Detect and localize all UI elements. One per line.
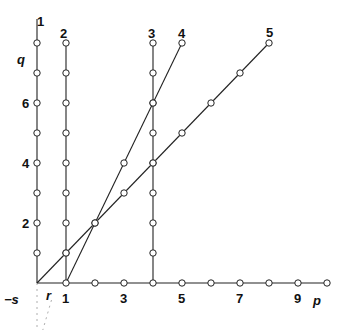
line-5-point [63, 250, 69, 256]
q-tick-label: 2 [22, 216, 29, 231]
line-5-point [237, 70, 243, 76]
p-axis-point [92, 280, 98, 286]
tick-labels-group: 13579246 [22, 96, 301, 306]
p-axis-point [150, 280, 156, 286]
points-group [34, 40, 330, 286]
line-1-point [34, 190, 40, 196]
line-3-point [150, 70, 156, 76]
p-axis-end-point [324, 280, 330, 286]
p-tick-label: 5 [178, 291, 185, 306]
line-2-point [63, 160, 69, 166]
line-2-point [63, 70, 69, 76]
p-axis-point [121, 280, 127, 286]
line-3-label: 3 [148, 26, 155, 41]
line-4-label: 4 [178, 26, 186, 41]
line-1-point [34, 130, 40, 136]
line-3-point [150, 190, 156, 196]
origin-neg-s-label: −s [4, 292, 19, 307]
line-2-label: 2 [60, 26, 67, 41]
line-3-point [150, 220, 156, 226]
q-tick-label: 4 [22, 156, 30, 171]
line-1-point [34, 100, 40, 106]
line-4-point [121, 160, 127, 166]
line-5-point [121, 190, 127, 196]
p-axis-point [63, 280, 69, 286]
p-tick-label: 3 [120, 291, 127, 306]
line-5-point [92, 220, 98, 226]
p-tick-label: 7 [236, 291, 243, 306]
line-1-point [34, 250, 40, 256]
line-1-point [34, 160, 40, 166]
y-axis-label: q [17, 52, 25, 67]
line-2-point [63, 130, 69, 136]
line-3-point [150, 130, 156, 136]
line-diagram: 1 2 3 4 5 q p r −s 13579246 [0, 0, 350, 336]
p-axis-point [208, 280, 214, 286]
line-5-label: 5 [266, 25, 273, 40]
p-axis-point [237, 280, 243, 286]
x-axis-label: p [312, 293, 321, 308]
line-5-point [150, 160, 156, 166]
q-tick-label: 6 [22, 96, 29, 111]
line-1-label: 1 [37, 14, 44, 29]
line-2-point [63, 100, 69, 106]
line-1-point [34, 70, 40, 76]
line-5-end-point [266, 40, 272, 46]
line-4-point [150, 100, 156, 106]
labels-group: 1 2 3 4 5 q p r −s [4, 14, 321, 308]
line-3-point [150, 250, 156, 256]
p-axis-point [179, 280, 185, 286]
r-guide-dashed-line [43, 300, 52, 330]
p-axis-point [295, 280, 301, 286]
p-tick-label: 1 [62, 291, 69, 306]
line-5-point [208, 100, 214, 106]
p-tick-label: 9 [294, 291, 301, 306]
p-axis-point [266, 280, 272, 286]
line-1-point [34, 40, 40, 46]
line-5-point [179, 130, 185, 136]
line-2-point [63, 190, 69, 196]
line-2-point [63, 220, 69, 226]
line-1-point [34, 220, 40, 226]
